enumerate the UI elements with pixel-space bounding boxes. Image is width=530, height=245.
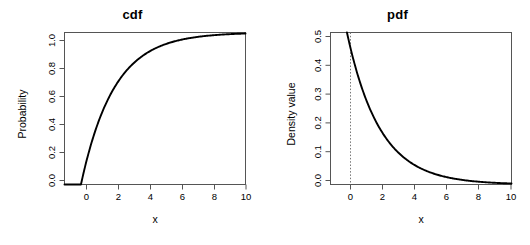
- plot-frame-cdf: [65, 33, 246, 185]
- x-tick-label: 6: [180, 191, 185, 202]
- cdf-curve: [65, 34, 246, 185]
- y-tick-label: 0.4: [312, 59, 323, 72]
- y-tick-label: 1.0: [46, 34, 57, 47]
- y-tick-label: 0.4: [46, 118, 57, 131]
- y-axis-ticks-pdf: [326, 37, 331, 181]
- x-axis-ticks-pdf: [351, 185, 512, 190]
- plot-area-pdf: 0 2 4 6 8 10 0.0 0.1 0.2 0.3 0.4 0.5: [265, 0, 530, 245]
- panel-pdf: pdf: [265, 0, 530, 245]
- x-tick-label: 0: [84, 191, 89, 202]
- plot-frame-pdf: [331, 33, 512, 185]
- x-tick-label: 8: [476, 191, 481, 202]
- y-tick-label: 0.1: [312, 145, 323, 158]
- x-tick-label: 4: [412, 191, 417, 202]
- y-tick-label: 0.2: [46, 146, 57, 159]
- y-tick-label: 0.6: [46, 90, 57, 103]
- y-tick-label: 0.3: [312, 87, 323, 100]
- x-tick-label: 2: [380, 191, 385, 202]
- y-tick-labels-pdf: 0.0 0.1 0.2 0.3 0.4 0.5: [312, 30, 323, 187]
- panel-cdf: cdf: [0, 0, 265, 245]
- y-axis-label-pdf: Density value: [285, 68, 297, 160]
- y-tick-labels-cdf: 0.0 0.2 0.4 0.6 0.8 1.0: [46, 34, 57, 187]
- y-tick-label: 0.8: [46, 62, 57, 75]
- y-axis-ticks-cdf: [60, 41, 65, 181]
- plot-area-cdf: 0 2 4 6 8 10 0.0 0.2 0.4 0.6 0.8 1.0: [0, 0, 265, 245]
- y-tick-label: 0.0: [46, 174, 57, 187]
- x-tick-label: 6: [444, 191, 449, 202]
- x-tick-label: 10: [506, 191, 517, 202]
- x-tick-labels-cdf: 0 2 4 6 8 10: [84, 191, 251, 202]
- y-axis-label-cdf: Probability: [16, 68, 28, 160]
- x-tick-label: 0: [348, 191, 353, 202]
- x-tick-label: 10: [241, 191, 252, 202]
- x-tick-labels-pdf: 0 2 4 6 8 10: [348, 191, 516, 202]
- y-tick-label: 0.2: [312, 116, 323, 129]
- x-tick-label: 2: [116, 191, 121, 202]
- x-tick-label: 4: [148, 191, 153, 202]
- pdf-curve: [347, 33, 512, 184]
- figure-container: cdf: [0, 0, 530, 245]
- x-tick-label: 8: [212, 191, 217, 202]
- x-axis-label-pdf: x: [330, 213, 512, 225]
- x-axis-label-cdf: x: [64, 213, 246, 225]
- y-tick-label: 0.0: [312, 174, 323, 187]
- y-tick-label: 0.5: [312, 30, 323, 43]
- x-axis-ticks-cdf: [87, 185, 247, 190]
